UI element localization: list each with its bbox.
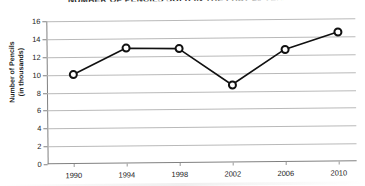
x-tick-label-2002: 2002: [224, 169, 241, 178]
series-line: [46, 18, 356, 164]
data-point-1990: [68, 70, 77, 79]
scan-edge: [1, 181, 365, 186]
y-tick-0: [44, 164, 48, 165]
x-tick-label-2006: 2006: [277, 169, 294, 178]
data-point-1994: [121, 44, 130, 53]
y-tick-label-10: 10: [32, 70, 40, 79]
chart-title: NUMBER OF PENCILS SOLD IN THE PAST 20 YE…: [0, 0, 364, 3]
x-tick-2002: [233, 163, 234, 166]
x-tick-label-1990: 1990: [65, 171, 82, 180]
x-tick-2006: [286, 162, 287, 165]
data-point-1998: [174, 44, 183, 53]
data-point-2010: [333, 27, 342, 36]
y-tick-label-6: 6: [37, 106, 41, 115]
x-tick-1998: [180, 163, 181, 166]
x-tick-label-2010: 2010: [330, 168, 347, 177]
y-tick-label-8: 8: [37, 88, 41, 97]
plot-area: 0246810121416 199019941998200220062010: [46, 18, 356, 164]
x-tick-1994: [127, 164, 128, 167]
y-axis-title-line-2: (in thousands): [16, 17, 26, 127]
x-tick-label-1994: 1994: [118, 170, 135, 179]
y-axis-title: Number of Pencils (in thousands): [8, 17, 26, 127]
y-tick-label-0: 0: [37, 160, 41, 169]
data-point-2002: [227, 80, 236, 89]
chart-figure: NUMBER OF PENCILS SOLD IN THE PAST 20 YE…: [0, 0, 365, 186]
y-tick-label-12: 12: [32, 53, 40, 62]
x-tick-1990: [74, 164, 75, 167]
data-point-2006: [280, 45, 289, 54]
y-tick-label-4: 4: [37, 124, 41, 133]
x-tick-2010: [339, 161, 340, 164]
x-tick-label-1998: 1998: [171, 170, 188, 179]
y-tick-label-16: 16: [32, 17, 40, 26]
y-tick-label-2: 2: [37, 142, 41, 151]
y-tick-label-14: 14: [32, 35, 40, 44]
